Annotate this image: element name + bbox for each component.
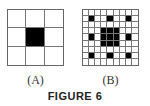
panel-b-label: (B) [82,73,139,88]
empty-cell [8,28,26,46]
empty-cell [26,10,44,28]
figure-caption: FIGURE 6 [0,90,150,102]
grid-panel-a [7,9,64,66]
empty-cell [132,59,138,65]
empty-cell [45,47,63,65]
panel-a-label: (A) [7,73,64,88]
grid-panel-b [82,9,139,66]
empty-cell [45,10,63,28]
empty-cell [26,47,44,65]
empty-cell [45,28,63,46]
empty-cell [8,47,26,65]
empty-cell [8,10,26,28]
filled-cell [26,28,44,46]
